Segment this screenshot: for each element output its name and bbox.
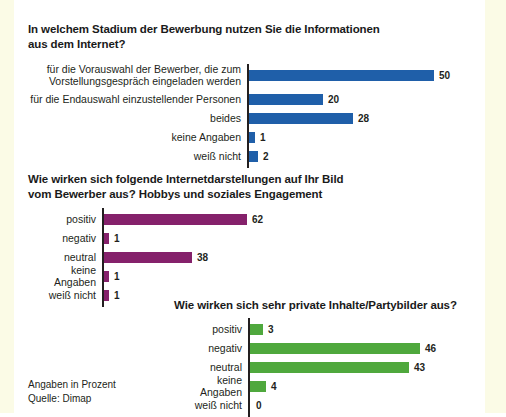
bar-row-label: negativ [28,233,102,245]
white-content-panel: In welchem Stadium der Bewerbung nutzen … [14,0,485,413]
bar-value-label: 1 [114,233,120,244]
footnote-source: Quelle: Dimap [28,392,116,406]
chart-title-line: In welchem Stadium der Bewerbung nutzen … [28,22,480,37]
chart-employment-stage-title: In welchem Stadium der Bewerbung nutzen … [28,22,480,52]
bar [249,94,323,105]
bar-value-label: 3 [268,324,274,335]
bar-row-label: weiß nicht [174,400,248,412]
bar-row: negativ 46 [174,339,480,358]
bar-track: 50 [247,66,480,85]
bar-track: 4 [248,377,480,396]
bar-value-label: 50 [439,70,450,81]
bar-value-label: 1 [260,132,266,143]
bar-value-label: 1 [114,271,120,282]
bar-track: 20 [247,90,480,109]
chart-employment-stage: In welchem Stadium der Bewerbung nutzen … [28,22,480,166]
bar [104,252,192,263]
bar-track: 1 [102,229,480,248]
bar-row: keine Angaben 1 [28,267,480,286]
bar-row: negativ 1 [28,229,480,248]
bar-row: für die Endauswahl einzustellender Perso… [28,90,480,109]
bar-row: positiv 62 [28,210,480,229]
bar-row-label: keine Angaben [28,265,102,289]
bar-value-label: 38 [197,252,208,263]
bar-track: 28 [247,109,480,128]
bar-value-label: 43 [414,362,425,373]
bar-value-label: 0 [256,400,262,411]
chart-title-line: Wie wirken sich folgende Internetdarstel… [28,172,480,187]
bar-row: positiv 3 [174,320,480,339]
bar-row-label: beides [28,113,247,125]
bar-value-label: 46 [425,343,436,354]
chart-title-line: aus dem Internet? [28,37,480,52]
bar-track: 62 [102,210,480,229]
bar-track: 38 [102,248,480,267]
chart-private-content: Wie wirken sich sehr private Inhalte/Par… [174,298,480,415]
bar-row-label: keine Angaben [174,375,248,399]
bar-value-label: 2 [263,151,269,162]
bar [249,70,434,81]
chart-hobbies: Wie wirken sich folgende Internetdarstel… [28,172,480,305]
footnote: Angaben in Prozent Quelle: Dimap [28,378,116,405]
bar-track: 0 [248,396,480,415]
bar-track: 46 [248,339,480,358]
footnote-units: Angaben in Prozent [28,378,116,392]
bar-row-label: neutral [174,362,248,374]
bar-row-label: positiv [174,324,248,336]
bar-row-label: keine Angaben [28,132,247,144]
bar-value-label: 20 [328,94,339,105]
bar-value-label: 28 [358,113,369,124]
chart-title-line: vom Bewerber aus? Hobbys und soziales En… [28,187,480,202]
bar [250,362,409,373]
bar [104,233,109,244]
bar [249,113,353,124]
bar-value-label: 1 [114,290,120,301]
bar-row-label: für die Endauswahl einzustellender Perso… [28,94,247,106]
bar-track: 2 [247,147,480,166]
bar [104,271,109,282]
bar-track: 1 [247,128,480,147]
bar-track: 1 [102,267,480,286]
value-axis-line [248,392,250,417]
bar [250,381,266,392]
bar-row-label: negativ [174,343,248,355]
chart-private-content-title: Wie wirken sich sehr private Inhalte/Par… [174,298,480,313]
chart-hobbies-title: Wie wirken sich folgende Internetdarstel… [28,172,480,202]
bar-row-label: neutral [28,252,102,264]
bar [250,324,263,335]
bar [250,343,420,354]
value-axis-line [247,143,249,168]
bar [249,132,255,143]
bar-row-label: für die Vorauswahl der Bewerber, die zum… [28,63,247,87]
bar-track: 3 [248,320,480,339]
bar-row: keine Angaben 4 [174,377,480,396]
bar-row: für die Vorauswahl der Bewerber, die zum… [28,60,480,90]
bar-track: 43 [248,358,480,377]
bar-value-label: 62 [252,214,263,225]
bar-row: keine Angaben 1 [28,128,480,147]
value-axis-line [102,282,104,307]
bar-row-label: weiß nicht [28,151,247,163]
bar [104,290,109,301]
bar-row: beides 28 [28,109,480,128]
bar [249,151,258,162]
bar-row-label: weiß nicht [28,290,102,302]
bar-value-label: 4 [271,381,277,392]
chart-hobbies-rows: positiv 62 negativ 1 [28,210,480,305]
bar-row-label: positiv [28,214,102,226]
chart-employment-stage-rows: für die Vorauswahl der Bewerber, die zum… [28,60,480,166]
bar-row: weiß nicht 0 [174,396,480,415]
chart-private-content-rows: positiv 3 negativ 46 [174,320,480,415]
bar [104,214,247,225]
chart-title-line: Wie wirken sich sehr private Inhalte/Par… [174,298,480,313]
bar-row: weiß nicht 2 [28,147,480,166]
